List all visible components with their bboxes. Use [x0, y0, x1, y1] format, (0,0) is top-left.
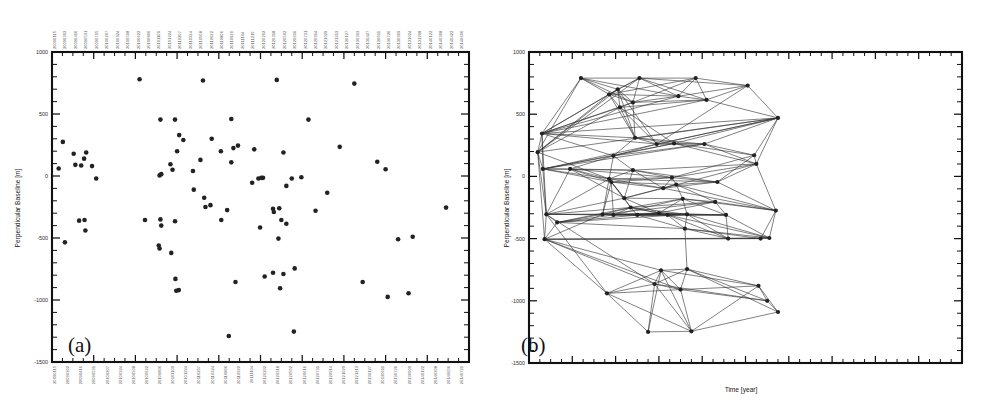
y-tick-label: -1000 — [34, 297, 48, 303]
top-date-label: 20090531 — [83, 30, 88, 49]
b-axis-frame — [529, 52, 962, 363]
scatter-point — [258, 225, 263, 230]
top-date-label: 20100324 — [115, 30, 120, 49]
top-date-label: 20120616 — [292, 30, 297, 49]
y-tick-label: 500 — [516, 111, 525, 117]
network-edge — [624, 198, 682, 199]
y-tick-label: 1000 — [36, 49, 48, 55]
bottom-date-label: 20130726 — [393, 365, 398, 384]
network-node — [672, 141, 676, 145]
network-edge — [681, 269, 687, 290]
bottom-date-label: 20090531 — [91, 365, 96, 384]
scatter-point — [173, 277, 178, 282]
top-date-label: 20110920 — [229, 30, 234, 49]
scatter-point — [337, 145, 342, 150]
network-node — [637, 76, 641, 80]
network-node — [659, 268, 663, 272]
network-edge — [613, 156, 632, 170]
bottom-date-label: 20120616 — [302, 365, 307, 384]
network-node — [616, 87, 620, 91]
scatter-point — [410, 234, 415, 239]
network-edge — [648, 331, 691, 332]
network-edge — [611, 182, 613, 215]
scatter-point — [313, 208, 318, 213]
panel-b: 10005000-500-1000-1500 (b) Perpendicular… — [491, 0, 982, 409]
scatter-point — [56, 166, 61, 171]
bottom-date-label: 20101224 — [183, 365, 188, 384]
network-edge — [570, 169, 624, 198]
panel-b-svg: 10005000-500-1000-1500 (b) Perpendicular… — [491, 0, 982, 409]
bottom-date-label: 20090416 — [78, 365, 83, 384]
scatter-point — [208, 203, 213, 208]
network-node — [541, 167, 545, 171]
top-date-label: 20121213 — [334, 30, 339, 49]
network-edge — [687, 269, 778, 312]
y-tick-label: 500 — [39, 111, 48, 117]
scatter-point — [292, 329, 297, 334]
scatter-point — [173, 219, 178, 224]
network-node — [676, 94, 680, 98]
network-node — [618, 105, 622, 109]
top-date-label: 20110806 — [219, 30, 224, 49]
scatter-point — [276, 236, 281, 241]
network-node — [752, 153, 756, 157]
network-node — [678, 288, 682, 292]
top-date-label: 20111104 — [240, 31, 245, 49]
network-node — [555, 220, 559, 224]
bottom-date-label: 20110920 — [236, 365, 241, 384]
network-edge — [756, 118, 778, 164]
network-node — [661, 186, 665, 190]
scatter-point — [274, 78, 279, 83]
y-tick-label: -500 — [514, 236, 525, 242]
network-edge — [758, 286, 777, 312]
scatter-point — [82, 156, 87, 161]
network-edge — [678, 86, 747, 97]
network-edge — [607, 293, 648, 332]
network-node — [633, 136, 637, 140]
top-date-label: 20110207 — [177, 30, 182, 49]
bottom-date-label: 20120914 — [328, 365, 333, 384]
top-date-label: 20100207 — [104, 30, 109, 49]
scatter-point — [306, 117, 311, 122]
scatter-point — [277, 206, 282, 211]
network-edge — [538, 78, 581, 152]
scatter-point — [181, 138, 186, 143]
top-date-label: 20140422 — [449, 30, 454, 49]
bottom-date-label: 20130909 — [407, 365, 412, 384]
panel-b-network-edges — [538, 78, 778, 332]
bottom-date-label: 20130127 — [367, 365, 372, 384]
scatter-point — [203, 205, 208, 210]
network-node — [756, 284, 760, 288]
a-axis-frame — [52, 52, 469, 362]
top-date-label: 20120502 — [282, 30, 287, 49]
network-node — [689, 329, 693, 333]
scatter-point — [252, 147, 257, 152]
panel-b-x-axis-title: Time [year] — [725, 386, 758, 394]
network-edge — [756, 164, 775, 211]
top-date-label: 20101109 — [156, 30, 161, 49]
panel-a-bottom-date-labels: 2009011520090302200904162009053120100207… — [52, 365, 464, 384]
network-edge — [661, 269, 687, 270]
y-tick-label: 0 — [522, 173, 525, 179]
scatter-point — [137, 77, 142, 82]
network-node — [544, 212, 548, 216]
bottom-date-label: 20100324 — [118, 365, 123, 384]
scatter-point — [77, 218, 82, 223]
scatter-point — [279, 218, 284, 223]
network-edge — [657, 86, 748, 144]
network-node — [746, 83, 750, 87]
network-node — [536, 150, 540, 154]
bottom-date-label: 20100508 — [131, 365, 136, 384]
y-tick-label: -1000 — [511, 298, 525, 304]
bottom-date-label: 20100207 — [105, 365, 110, 384]
scatter-point — [176, 288, 181, 293]
panel-a: 10005000-500-1000-1500 20090115200903022… — [0, 0, 491, 409]
top-date-label: 20120318 — [271, 30, 276, 49]
network-node — [601, 212, 605, 216]
scatter-point — [159, 172, 164, 177]
scatter-point — [202, 195, 207, 200]
scatter-point — [158, 217, 163, 222]
scatter-point — [209, 137, 214, 142]
network-edge — [607, 270, 661, 293]
network-edge — [609, 170, 633, 179]
